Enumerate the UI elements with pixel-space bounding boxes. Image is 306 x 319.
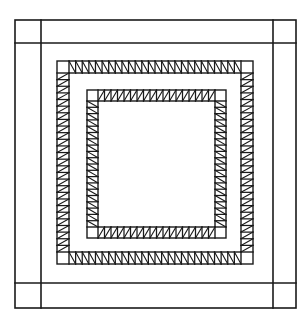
- band-inner-edge: [98, 101, 215, 227]
- quilt-block-svg: Quilt block pattern: [0, 0, 306, 319]
- quilt-diagram: Quilt block pattern: [0, 0, 306, 319]
- sawtooth-borders: [57, 61, 253, 264]
- band-outer-edge: [87, 90, 226, 238]
- inner-sawtooth-border: [87, 90, 226, 238]
